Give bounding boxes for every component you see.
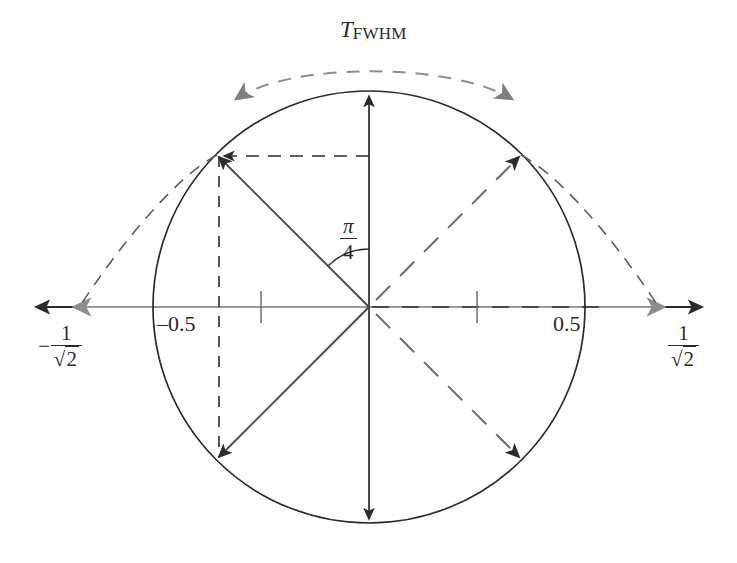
fraction-denominator: √2 xyxy=(51,347,82,371)
fraction-denominator: √2 xyxy=(668,347,699,371)
tfwhm-arc-group xyxy=(236,71,512,99)
angle-label-pi-over-4: π 4 xyxy=(340,215,357,264)
sqrt-radicand: 2 xyxy=(683,346,697,371)
x-endpoint-label-pos-invsqrt2: 1 √2 xyxy=(668,322,699,371)
fraction-numerator: π xyxy=(340,215,357,237)
diagonal-solid-lower-left xyxy=(219,307,369,457)
sqrt-glyph: √ xyxy=(54,347,66,371)
fraction-neg-invsqrt2: 1 √2 xyxy=(51,322,82,371)
minus-sign-glyph: − xyxy=(38,336,51,357)
tfwhm-label: TFWHM xyxy=(340,18,407,41)
unit-circle-diagram xyxy=(0,0,737,563)
x-endpoint-label-neg-invsqrt2: − 1 √2 xyxy=(38,322,82,371)
sqrt-overbar: 2 xyxy=(65,347,79,371)
fraction-pos-invsqrt2: 1 √2 xyxy=(668,322,699,371)
x-tick-label-pos-half: 0.5 xyxy=(553,313,581,335)
diagonal-dashed-lower-right xyxy=(376,314,519,457)
tfwhm-span-arc xyxy=(236,71,512,99)
fraction-numerator: 1 xyxy=(51,322,82,344)
fraction-denominator: 4 xyxy=(340,240,357,264)
fraction-bar xyxy=(340,238,357,239)
figure-root: TFWHM –0.5 0.5 − 1 √2 1 √2 π 4 xyxy=(0,0,737,563)
tfwhm-subscript-text: FWHM xyxy=(353,24,407,43)
tfwhm-main-text: T xyxy=(340,17,353,42)
sqrt-radicand: 2 xyxy=(65,346,79,371)
x-tick-label-neg-half: –0.5 xyxy=(157,313,196,335)
fraction-pi-over-4: π 4 xyxy=(340,215,357,264)
sqrt-overbar: 2 xyxy=(683,347,697,371)
sqrt-glyph: √ xyxy=(671,347,683,371)
fraction-numerator: 1 xyxy=(668,322,699,344)
diagonal-dashed-upper-right xyxy=(376,157,519,300)
